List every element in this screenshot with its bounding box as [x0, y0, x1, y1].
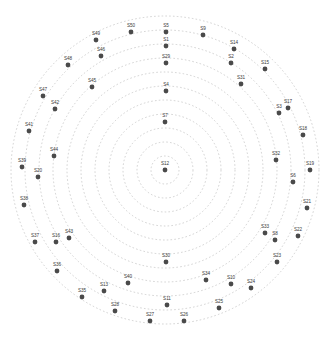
data-point[interactable]: S48: [64, 56, 73, 67]
data-point[interactable]: S20: [34, 168, 43, 179]
point-marker[interactable]: [305, 206, 310, 211]
data-point[interactable]: S34: [202, 271, 211, 282]
data-point[interactable]: S42: [51, 100, 60, 111]
point-marker[interactable]: [80, 295, 85, 300]
data-point[interactable]: S29: [162, 54, 171, 65]
point-marker[interactable]: [148, 319, 153, 324]
data-point[interactable]: S11: [163, 296, 171, 307]
data-point[interactable]: S14: [230, 40, 239, 51]
point-label: S40: [124, 274, 133, 279]
point-marker[interactable]: [27, 129, 32, 134]
point-marker[interactable]: [229, 61, 234, 66]
point-marker[interactable]: [36, 175, 41, 180]
data-point[interactable]: S3: [276, 104, 282, 115]
data-point[interactable]: S4: [163, 82, 169, 93]
data-point[interactable]: S21: [303, 199, 312, 210]
point-label: S3: [276, 104, 282, 109]
point-marker[interactable]: [164, 61, 169, 66]
data-point[interactable]: S7: [162, 113, 168, 124]
data-point[interactable]: S25: [215, 299, 224, 310]
data-point[interactable]: S37: [31, 233, 40, 244]
point-marker[interactable]: [163, 168, 168, 173]
data-point[interactable]: S28: [111, 302, 120, 313]
point-marker[interactable]: [164, 30, 169, 35]
point-marker[interactable]: [291, 180, 296, 185]
point-marker[interactable]: [301, 133, 306, 138]
data-point[interactable]: S1: [163, 37, 169, 48]
data-point[interactable]: S33: [261, 224, 270, 235]
point-marker[interactable]: [22, 203, 27, 208]
point-marker[interactable]: [296, 234, 301, 239]
point-marker[interactable]: [67, 236, 72, 241]
data-point[interactable]: S24: [247, 279, 256, 290]
point-marker[interactable]: [229, 282, 234, 287]
point-marker[interactable]: [239, 82, 244, 87]
data-point[interactable]: S26: [180, 312, 189, 323]
data-point[interactable]: S31: [237, 75, 246, 86]
data-point[interactable]: S46: [97, 47, 106, 58]
data-point[interactable]: S13: [100, 282, 109, 293]
point-marker[interactable]: [273, 238, 278, 243]
data-point[interactable]: S40: [124, 274, 133, 285]
point-marker[interactable]: [164, 260, 169, 265]
point-marker[interactable]: [94, 38, 99, 43]
data-point[interactable]: S49: [92, 31, 101, 42]
data-point[interactable]: S32: [272, 151, 281, 162]
point-marker[interactable]: [263, 67, 268, 72]
point-marker[interactable]: [232, 47, 237, 52]
point-marker[interactable]: [102, 289, 107, 294]
data-point[interactable]: S41: [25, 122, 34, 133]
data-point[interactable]: S8: [272, 231, 278, 242]
point-marker[interactable]: [20, 165, 25, 170]
data-point[interactable]: S18: [299, 126, 308, 137]
point-marker[interactable]: [129, 30, 134, 35]
data-point[interactable]: S45: [88, 78, 97, 89]
data-point[interactable]: S35: [78, 288, 87, 299]
data-point[interactable]: S22: [294, 227, 303, 238]
data-point[interactable]: S12: [161, 161, 170, 172]
point-marker[interactable]: [165, 303, 170, 308]
data-point[interactable]: S19: [306, 161, 315, 172]
point-marker[interactable]: [308, 168, 313, 173]
point-marker[interactable]: [217, 306, 222, 311]
data-point[interactable]: S38: [20, 196, 29, 207]
point-marker[interactable]: [275, 260, 280, 265]
point-marker[interactable]: [286, 106, 291, 111]
point-marker[interactable]: [53, 107, 58, 112]
data-point[interactable]: S5: [163, 23, 169, 34]
data-points: S12S7S4S29S1S5S9S14S2S15S31S17S3S18S32S1…: [18, 23, 315, 323]
data-point[interactable]: S36: [53, 262, 62, 273]
point-marker[interactable]: [54, 240, 59, 245]
point-marker[interactable]: [66, 63, 71, 68]
point-marker[interactable]: [249, 286, 254, 291]
data-point[interactable]: S50: [127, 23, 136, 34]
data-point[interactable]: S16: [52, 233, 61, 244]
point-marker[interactable]: [274, 158, 279, 163]
data-point[interactable]: S15: [261, 60, 270, 71]
data-point[interactable]: S47: [39, 87, 48, 98]
point-marker[interactable]: [55, 269, 60, 274]
point-marker[interactable]: [33, 240, 38, 245]
data-point[interactable]: S23: [273, 253, 282, 264]
point-marker[interactable]: [52, 154, 57, 159]
data-point[interactable]: S43: [65, 229, 74, 240]
point-marker[interactable]: [126, 281, 131, 286]
data-point[interactable]: S6: [290, 173, 296, 184]
point-marker[interactable]: [182, 319, 187, 324]
point-marker[interactable]: [164, 44, 169, 49]
point-marker[interactable]: [90, 85, 95, 90]
point-marker[interactable]: [277, 111, 282, 116]
point-marker[interactable]: [99, 54, 104, 59]
data-point[interactable]: S30: [162, 253, 171, 264]
data-point[interactable]: S17: [284, 99, 293, 110]
data-point[interactable]: S10: [227, 275, 236, 286]
point-marker[interactable]: [164, 89, 169, 94]
point-marker[interactable]: [201, 33, 206, 38]
point-marker[interactable]: [204, 278, 209, 283]
point-marker[interactable]: [41, 94, 46, 99]
point-label: S47: [39, 87, 48, 92]
point-marker[interactable]: [163, 120, 168, 125]
point-marker[interactable]: [263, 231, 268, 236]
point-marker[interactable]: [113, 309, 118, 314]
data-point[interactable]: S27: [146, 312, 155, 323]
